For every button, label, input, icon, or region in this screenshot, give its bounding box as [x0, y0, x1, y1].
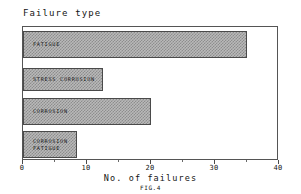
bar-label-corrosion: CORROSION: [24, 108, 68, 115]
plot-area: FATIGUE STRESS CORROSION CORROSION CORRO…: [22, 26, 278, 160]
x-minor-tick-35: [246, 160, 247, 162]
x-axis-title: No. of failures: [0, 173, 301, 183]
bar-label-fatigue: FATIGUE: [24, 41, 60, 48]
figure-container: Failure type FATIGUE STRESS CORROSION CO…: [0, 0, 301, 194]
x-tick-label-40: 40: [273, 164, 282, 172]
x-minor-tick-15: [118, 160, 119, 162]
x-minor-tick-5: [54, 160, 55, 162]
bar-label-corrosion-fatigue: CORROSION FATIGUE: [24, 138, 68, 152]
bar-label-stress-corrosion: STRESS CORROSION: [24, 76, 95, 83]
bar-fatigue: FATIGUE: [23, 31, 247, 58]
bar-corrosion-fatigue: CORROSION FATIGUE: [23, 131, 77, 158]
chart-title: Failure type: [23, 8, 101, 18]
bar-corrosion: CORROSION: [23, 98, 151, 125]
x-tick-label-20: 20: [145, 164, 154, 172]
x-tick-label-10: 10: [81, 164, 90, 172]
figure-caption: FIG.4: [0, 184, 301, 191]
x-minor-tick-25: [182, 160, 183, 162]
x-tick-label-0: 0: [20, 164, 25, 172]
bar-stress-corrosion: STRESS CORROSION: [23, 68, 103, 91]
x-tick-label-30: 30: [209, 164, 218, 172]
